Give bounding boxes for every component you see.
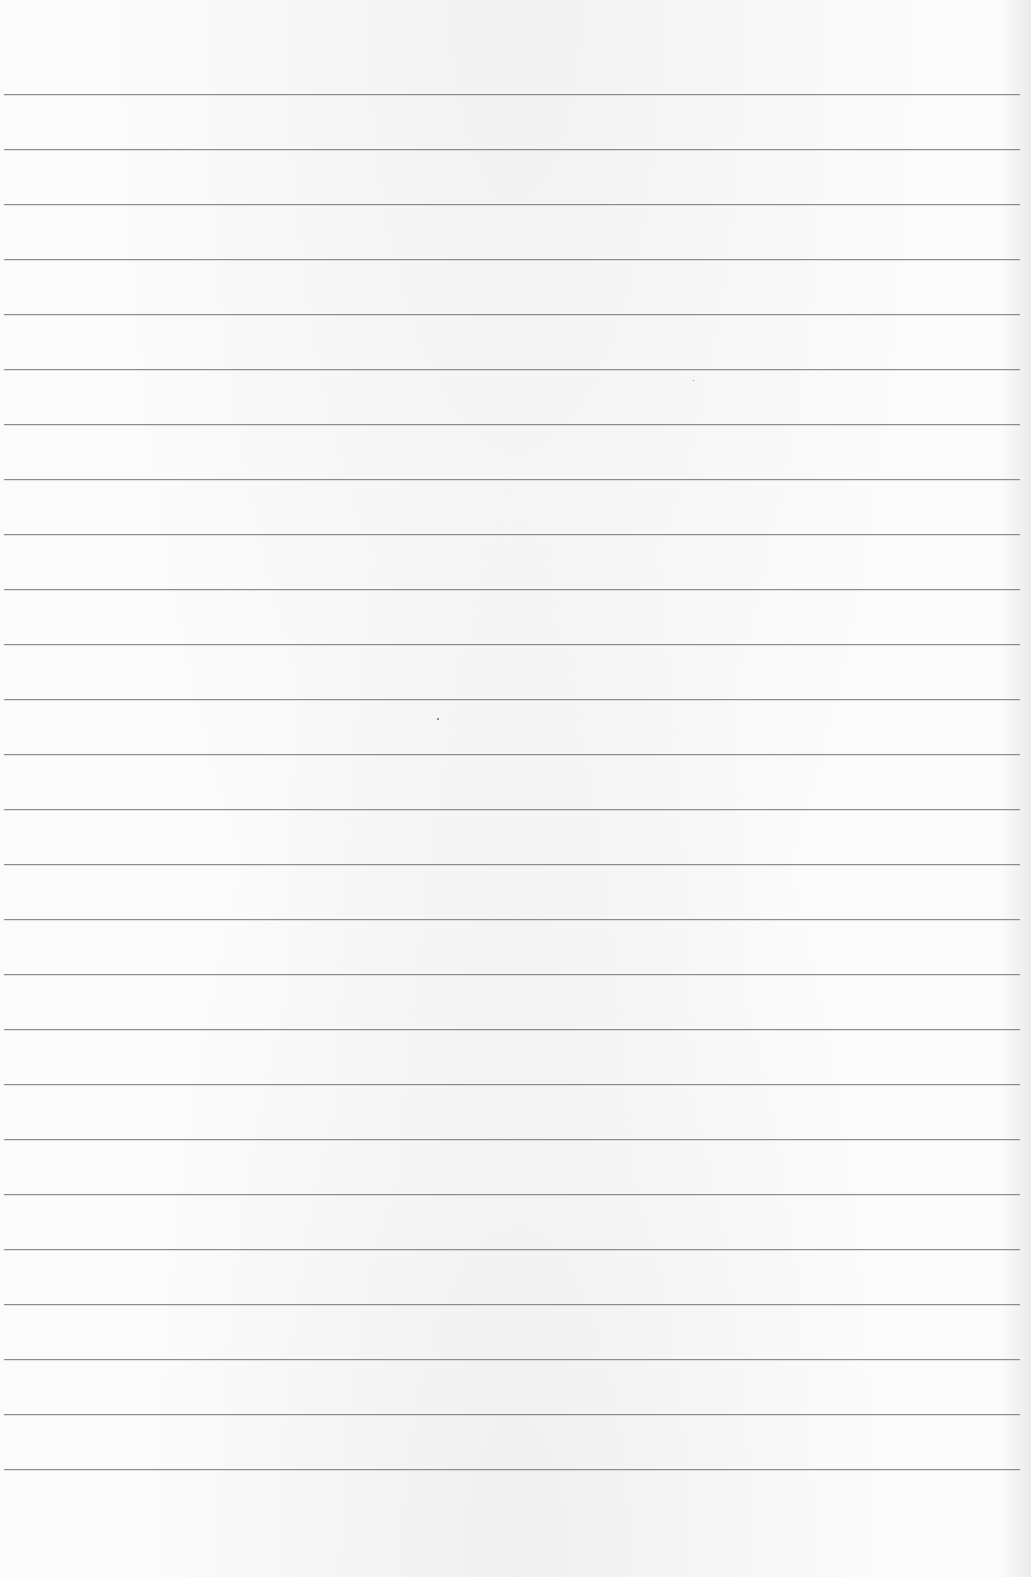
ruled-paper-page	[0, 0, 1031, 1577]
ruled-line	[4, 534, 1020, 535]
ruled-line	[4, 919, 1020, 920]
ruled-line	[4, 754, 1020, 755]
ruled-line	[4, 1359, 1020, 1360]
ruled-line	[4, 1304, 1020, 1305]
ruled-line	[4, 1414, 1020, 1415]
ruled-line	[4, 479, 1020, 480]
ruled-line	[4, 94, 1020, 95]
ruled-line	[4, 974, 1020, 975]
ruled-line	[4, 369, 1020, 370]
ruled-line	[4, 314, 1020, 315]
ruled-line	[4, 699, 1020, 700]
ruled-line	[4, 1084, 1020, 1085]
paper-speck	[437, 718, 439, 720]
ruled-line	[4, 589, 1020, 590]
ruled-line	[4, 1249, 1020, 1250]
ruled-line	[4, 204, 1020, 205]
ruled-line	[4, 864, 1020, 865]
ruled-line	[4, 644, 1020, 645]
ruled-line	[4, 149, 1020, 150]
ruled-line	[4, 424, 1020, 425]
ruled-line	[4, 1139, 1020, 1140]
ruled-line	[4, 1469, 1020, 1470]
ruled-line	[4, 1194, 1020, 1195]
paper-speck	[693, 380, 694, 381]
ruled-line	[4, 1029, 1020, 1030]
ruled-lines	[0, 0, 1031, 1577]
ruled-line	[4, 809, 1020, 810]
ruled-line	[4, 259, 1020, 260]
